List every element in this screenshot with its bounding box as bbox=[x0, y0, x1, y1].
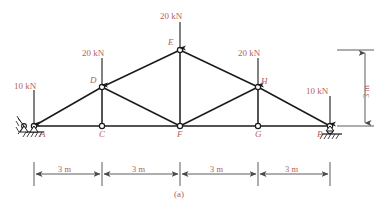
dim-label-span-3: 3 m bbox=[210, 165, 223, 174]
member-top-chord-DE bbox=[102, 50, 180, 87]
dim-label-span-1: 3 m bbox=[58, 165, 71, 174]
load-label-B: 10 kN bbox=[306, 87, 328, 96]
member-top-chord-AD bbox=[34, 87, 102, 126]
joint-H bbox=[255, 84, 260, 89]
member-diagonal-DF bbox=[102, 87, 180, 126]
dim-label-span-4: 3 m bbox=[285, 165, 298, 174]
node-label-G: G bbox=[255, 130, 262, 139]
load-label-D: 20 kN bbox=[82, 49, 104, 58]
load-label-H: 20 kN bbox=[238, 49, 260, 58]
dim-label-height: 3 m bbox=[362, 85, 371, 98]
truss-diagram-figure: 10 kN 20 kN 20 kN 20 kN 10 kN A C F G B … bbox=[0, 0, 383, 209]
joint-F bbox=[177, 123, 182, 128]
node-label-B: B bbox=[317, 130, 323, 139]
dim-label-span-2: 3 m bbox=[132, 165, 145, 174]
joint-C bbox=[99, 123, 104, 128]
node-label-A: A bbox=[40, 130, 46, 139]
support-roller-B bbox=[320, 126, 342, 139]
joint-E bbox=[177, 47, 182, 52]
load-label-A: 10 kN bbox=[14, 82, 36, 91]
node-label-D: D bbox=[90, 76, 97, 85]
node-label-H: H bbox=[261, 77, 268, 86]
joint-D bbox=[99, 84, 104, 89]
node-label-F: F bbox=[177, 130, 183, 139]
truss-drawing-canvas bbox=[0, 0, 383, 209]
load-label-E: 20 kN bbox=[160, 12, 182, 21]
node-label-E: E bbox=[168, 38, 174, 47]
node-label-C: C bbox=[99, 130, 105, 139]
figure-caption: (a) bbox=[174, 190, 184, 199]
member-diagonal-FH bbox=[180, 87, 258, 126]
joint-G bbox=[255, 123, 260, 128]
